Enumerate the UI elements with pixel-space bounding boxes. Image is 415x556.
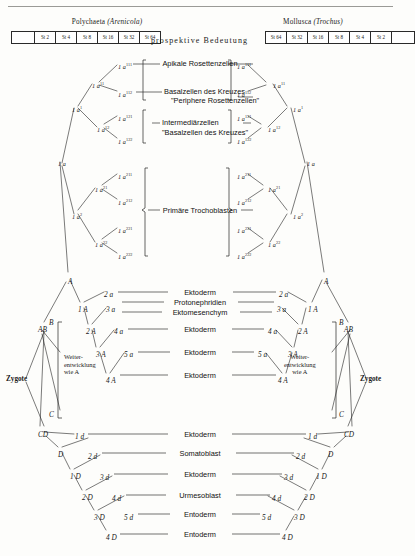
right-quad-rq-3D: 3 D	[294, 513, 305, 522]
left-quad-lq-4D: 4 D	[106, 533, 117, 542]
fate-entoderm-4D: Entoderm	[184, 530, 216, 539]
left-cell-l-1a2: 1 a2	[72, 212, 82, 220]
left-quad-lq-3A: 3 A	[96, 350, 106, 359]
right-quad-rq-2D: 2 D	[304, 493, 315, 502]
left-quad-lq-2D: 2 D	[82, 493, 93, 502]
right-quad-rq-4a: 4 a	[268, 327, 277, 336]
left-cell-l-1a12: 1 a12	[97, 125, 109, 133]
fate-somatoblast: Somatoblast	[179, 449, 220, 458]
left-quad-lq-1A: 1 A	[78, 305, 88, 314]
left-quad-lq-CD: CD	[38, 430, 48, 439]
fate-intermediarzellen: Intermediärzellen	[162, 118, 219, 127]
left-cell-l-1a11: 1 a11	[92, 81, 104, 89]
fate-apikale-rosettenzellen: Apikale Rosettenzellen	[162, 59, 237, 68]
right-weiter-l3: wie A	[292, 368, 307, 375]
fate-ektoderm-4A: Ektoderm	[184, 371, 216, 380]
right-cell-r-1a12: 1 a12	[268, 125, 280, 133]
left-weiter-l2: entwicklung	[64, 361, 96, 368]
left-quad-lq-A: A	[68, 277, 72, 286]
right-quad-rq-4D: 4 D	[282, 533, 293, 542]
left-quad-lq-5d: 5 d	[124, 513, 133, 522]
left-cell-l-1a122: 1 a122	[118, 137, 132, 145]
right-quad-rq-1A: 1 A	[308, 305, 318, 314]
left-quad-lq-2d: 2 d	[88, 452, 97, 461]
left-cell-l-1a221: 1 a221	[118, 226, 132, 234]
right-weiter-l2: entwicklung	[284, 361, 316, 368]
fate-ektoderm-2a: Ektoderm	[184, 288, 216, 297]
left-cell-l-1a: 1 a	[58, 160, 66, 167]
fate-protonephridien: Protonephridien	[174, 298, 226, 307]
right-cell-r-1a211: 1 a211	[237, 172, 251, 180]
left-quad-lq-D: D	[58, 450, 63, 459]
left-cell-l-1a211: 1 a211	[118, 172, 132, 180]
fate-ektoderm-3d: Ektoderm	[184, 470, 216, 479]
right-cell-r-1a11: 1 a11	[273, 81, 285, 89]
left-cell-l-1a112: 1 a112	[118, 90, 132, 98]
left-quad-lq-2A: 2 A	[86, 327, 96, 336]
left-quad-lq-3a: 3 a	[106, 305, 115, 314]
left-cell-l-1a1: 1 a1	[72, 105, 82, 113]
left-weiter-l3: wie A	[64, 368, 79, 375]
left-cell-l-1a121: 1 a121	[118, 114, 132, 122]
left-weiterentwicklung: Weiter- entwicklung wie A	[64, 353, 96, 376]
left-cell-l-1a22: 1 a22	[95, 240, 107, 248]
left-quad-C: C	[49, 410, 54, 419]
right-quad-rq-1D: 1 D	[316, 472, 327, 481]
fate-primare-trochoblasten: Primäre Trochoblasten	[163, 206, 237, 215]
right-cell-r-1a122: 1 a122	[237, 137, 251, 145]
right-quad-rq-CD: CD	[344, 430, 354, 439]
right-quad-rq-2A: 2 A	[298, 327, 308, 336]
left-cell-l-1a212: 1 a212	[118, 198, 132, 206]
right-quad-rq-A: A	[324, 277, 328, 286]
left-cell-l-1a222: 1 a222	[118, 252, 132, 260]
left-quad-lq-2a: 2 a	[104, 290, 113, 299]
right-cell-r-1a111: 1 a111	[237, 62, 251, 70]
left-quad-lq-3d: 3 d	[100, 473, 109, 482]
right-quad-rq-1d: 1 d	[308, 432, 317, 441]
right-quad-rq-2d: 2 d	[296, 452, 305, 461]
left-cell-l-1a111: 1 a111	[118, 62, 132, 70]
right-quad-rq-3A: 3 A	[288, 350, 298, 359]
fate-basalzellen-kreuz-quoted: "Basalzellen des Kreuzes"	[162, 128, 248, 137]
left-zygote-label: Zygote	[6, 375, 27, 383]
right-quad-rq-5a: 5 a	[258, 350, 267, 359]
fate-urmesoblast: Urmesoblast	[179, 491, 220, 500]
right-quad-rq-2a: 2 a	[279, 290, 288, 299]
right-cell-r-1a222: 1 a222	[237, 252, 251, 260]
right-quad-C: C	[339, 410, 344, 419]
right-quad-rq-3a: 3 a	[277, 305, 286, 314]
left-quad-lq-4d: 4 d	[112, 494, 121, 503]
right-cell-r-1a1: 1 a1	[293, 105, 303, 113]
left-quad-lq-4a: 4 a	[114, 327, 123, 336]
fate-ektomesenchym: Ektomesenchym	[173, 308, 228, 317]
right-cell-r-1a212: 1 a212	[237, 198, 251, 206]
left-quad-lq-3D: 3 D	[94, 513, 105, 522]
right-cell-r-1a22: 1 a22	[268, 240, 280, 248]
right-quad-rq-3d: 3 d	[284, 473, 293, 482]
right-cell-r-1a221: 1 a221	[237, 226, 251, 234]
right-quad-rq-AB: AB	[344, 325, 353, 334]
left-weiter-l1: Weiter-	[64, 353, 83, 360]
left-quad-lq-4A: 4 A	[106, 376, 116, 385]
left-quad-lq-1D: 1 D	[70, 472, 81, 481]
fate-entoderm-5d: Entoderm	[184, 510, 216, 519]
fate-ektoderm-5a: Ektoderm	[184, 348, 216, 357]
left-quad-lq-AB: AB	[38, 325, 47, 334]
right-zygote-label: Zygote	[360, 375, 381, 383]
right-cell-r-1a2: 1 a2	[293, 212, 303, 220]
right-cell-r-1a121: 1 a121	[237, 114, 251, 122]
left-quad-lq-1d: 1 d	[75, 432, 84, 441]
right-quad-rq-D: D	[328, 450, 333, 459]
fate-basalzellen-des-kreuzes: Basalzellen des Kreuzes	[164, 87, 245, 96]
fate-ektoderm-1d: Ektoderm	[184, 430, 216, 439]
right-quad-B: B	[339, 318, 343, 327]
right-quad-rq-5d: 5 d	[262, 513, 271, 522]
fate-ektoderm-4a: Ektoderm	[184, 325, 216, 334]
right-cell-r-1a112: 1 a112	[237, 90, 251, 98]
right-cell-r-1a21: 1 a21	[268, 185, 280, 193]
left-quad-B: B	[49, 318, 53, 327]
right-quad-rq-4d: 4 d	[272, 494, 281, 503]
right-cell-r-1a: 1 a	[307, 160, 315, 167]
right-quad-rq-4A: 4 A	[278, 376, 288, 385]
